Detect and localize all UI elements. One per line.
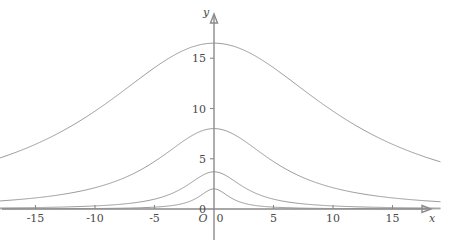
origin-label: O (198, 212, 207, 225)
y-axis-label: y (202, 6, 210, 19)
x-tick-label: 5 (270, 212, 277, 225)
y-tick-label: 5 (199, 153, 206, 166)
x-tick-label: 15 (386, 212, 400, 225)
x-tick-label: 10 (326, 212, 340, 225)
chart-canvas: -15-10-551015 051015 O 0 x y (0, 0, 450, 247)
y-tick-label: 15 (192, 52, 206, 65)
x-tick-labels: -15-10-551015 (27, 212, 400, 225)
x-tick-label: -15 (27, 212, 45, 225)
x-tick-label: -5 (149, 212, 160, 225)
x-tick-label: -10 (86, 212, 104, 225)
axes-group (2, 14, 431, 240)
x-axis-label: x (429, 212, 436, 225)
curve-3 (0, 172, 440, 208)
y-tick-label: 10 (192, 103, 206, 116)
curve-4 (0, 189, 440, 209)
x-zero-label: 0 (217, 212, 224, 225)
function-plot: -15-10-551015 051015 O 0 x y (0, 0, 450, 247)
curve-1 (0, 43, 440, 162)
curves-group (0, 43, 440, 209)
